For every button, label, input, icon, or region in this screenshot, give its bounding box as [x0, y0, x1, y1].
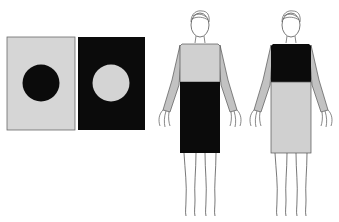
figure-light-top-dark-skirt — [159, 11, 241, 216]
top-garment — [271, 44, 311, 82]
left-sleeve — [163, 45, 181, 112]
head — [191, 13, 209, 37]
left-sleeve — [254, 45, 272, 112]
top-garment — [180, 44, 220, 82]
right-hand — [321, 110, 332, 127]
legs — [184, 153, 216, 216]
skirt-garment — [180, 82, 220, 153]
panel-light-with-dark-circle — [7, 37, 75, 130]
figure-dark-top-light-skirt — [250, 11, 332, 216]
skirt-garment — [271, 82, 311, 153]
right-hand — [230, 110, 241, 127]
left-hand — [159, 110, 170, 127]
light-circle — [93, 65, 130, 102]
right-sleeve — [310, 45, 328, 112]
right-sleeve — [219, 45, 237, 112]
left-hand — [250, 110, 261, 127]
panel-dark-with-light-circle — [78, 37, 145, 130]
contrast-illustration — [0, 0, 339, 222]
legs — [275, 153, 307, 216]
illustration-stage — [0, 0, 339, 222]
dark-circle — [23, 65, 60, 102]
head — [282, 13, 300, 37]
